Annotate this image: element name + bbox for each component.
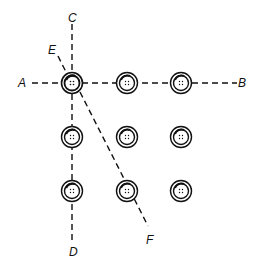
label-c: C [68,11,77,25]
button-r3-c3 [171,181,192,202]
button-r1-c2 [117,73,138,94]
label-e: E [48,43,57,57]
button-r3-c2 [117,181,138,202]
button-grid [62,73,192,202]
label-a: A [17,76,26,90]
button-r2-c3 [171,127,192,148]
label-f: F [146,233,154,247]
line-f [80,92,148,226]
button-r1-c3 [171,73,192,94]
button-grid-diagram: C E A B D F [0,0,259,272]
line-e [58,56,66,72]
button-r2-c1 [62,127,83,148]
label-d: D [69,245,78,259]
button-r3-c1 [62,181,83,202]
button-r2-c2 [117,127,138,148]
label-b: B [238,76,246,90]
button-r1-c1 [62,73,83,94]
